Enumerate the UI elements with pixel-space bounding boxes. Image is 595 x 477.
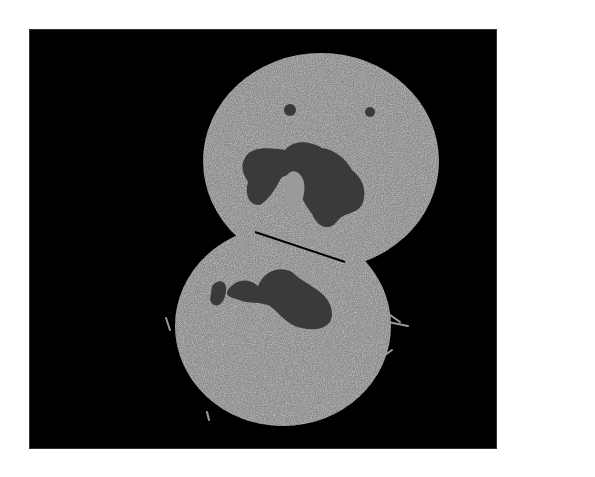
micrograph-image xyxy=(0,0,595,477)
